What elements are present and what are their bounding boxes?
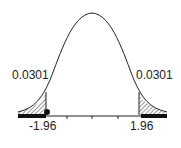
right-rejection-bar [141, 114, 167, 118]
right-tail-area-label: 0.0301 [136, 68, 173, 82]
right-critical-value-label: 1.96 [130, 119, 153, 133]
left-tail-area-label: 0.0301 [12, 68, 49, 82]
left-critical-value-label: -1.96 [29, 119, 56, 133]
right-tail-region [139, 92, 167, 115]
left-rejection-bar [18, 114, 46, 118]
left-critical-point [44, 109, 50, 115]
density-curve [18, 13, 167, 112]
